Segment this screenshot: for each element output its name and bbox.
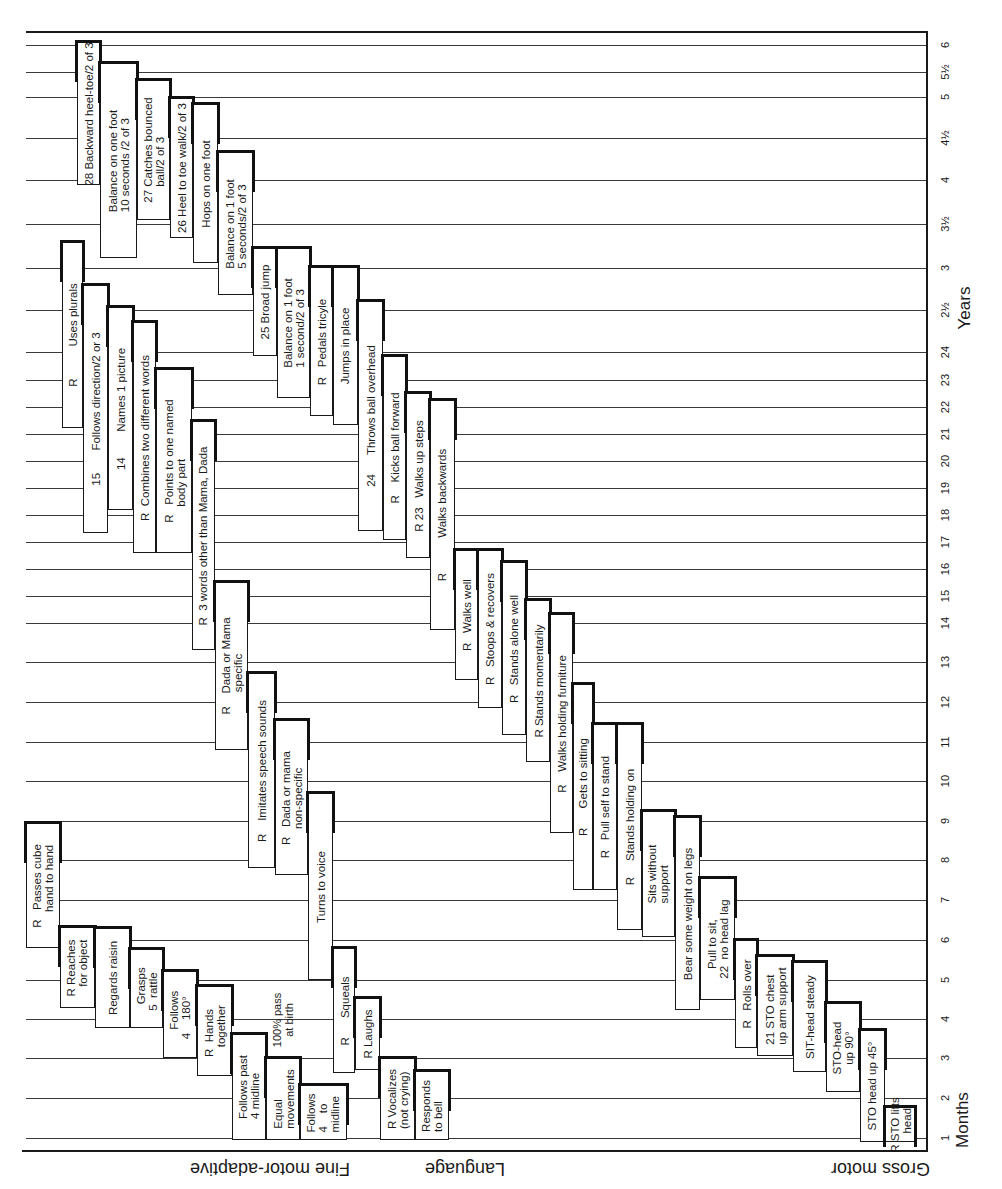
age-tick-label: 5 — [935, 970, 955, 990]
age-tick-label: 7 — [935, 890, 955, 910]
milestone-label: STO head up 45° — [866, 1042, 878, 1131]
milestone-label: R Walks backwards — [436, 449, 448, 582]
percentile-bar-top — [310, 265, 333, 268]
percentile-bar-marker — [231, 984, 234, 1026]
milestone-item: R Hands together — [197, 986, 232, 1076]
percentile-bar-marker — [191, 367, 194, 409]
age-tick-label: 2 — [935, 1088, 955, 1108]
percentile-bar-marker — [306, 791, 309, 833]
milestone-label: R Kicks ball forward — [389, 392, 401, 503]
percentile-bar-marker — [308, 265, 311, 307]
gridline — [26, 702, 926, 703]
milestone-item: 28 Backward heel-toe/2 of 3 — [77, 42, 100, 185]
percentile-bar-marker — [216, 150, 219, 192]
milestone-label: R Stands alone well — [508, 594, 520, 702]
milestone-item: R Walks well — [455, 550, 478, 680]
percentile-bar-marker — [413, 1069, 416, 1111]
percentile-bar-marker — [382, 299, 385, 341]
percentile-bar-marker — [548, 612, 551, 654]
percentile-bar-marker — [60, 240, 63, 282]
milestone-item: R Vocalizes (not crying) — [380, 1058, 415, 1140]
percentile-bar-marker — [673, 815, 676, 857]
percentile-bar-marker — [135, 78, 138, 120]
milestone-item: R Pull self to stand — [593, 724, 617, 890]
milestone-label: R 3 words other than Mama, Dada — [197, 446, 209, 625]
age-tick-label: 12 — [935, 692, 955, 712]
percentile-bar-marker — [155, 320, 158, 362]
milestone-label: R Dada or mama non-specific — [279, 751, 303, 845]
percentile-bar-marker — [592, 682, 595, 724]
percentile-bar-marker — [428, 398, 431, 440]
percentile-bar-marker — [824, 1001, 827, 1043]
milestone-item: R Stands holding on — [617, 724, 642, 930]
milestone-label: R Walks holding furniture — [555, 655, 567, 793]
percentile-bar-top — [277, 246, 310, 249]
milestone-label: R Gets to sitting — [577, 738, 589, 836]
percentile-bar-top — [197, 984, 232, 987]
percentile-bar-marker — [191, 102, 194, 144]
milestone-item: Follows past 4 midline — [232, 1034, 266, 1140]
age-tick-label: 14 — [935, 613, 955, 633]
percentile-bar-marker — [214, 419, 217, 461]
percentile-bar-top — [308, 791, 333, 794]
percentile-bar-marker — [213, 580, 216, 622]
milestone-item: Turns to voice — [308, 793, 333, 980]
annotation-note: 100% pass at birth — [271, 993, 295, 1047]
milestone-label: Jumps in place — [339, 308, 351, 385]
percentile-bar-marker — [190, 419, 193, 461]
percentile-bar-marker — [59, 821, 62, 863]
milestone-label: Follows 4 to midline — [305, 1093, 341, 1132]
milestone-label: R Walks well — [460, 579, 472, 651]
age-tick-label: 17 — [935, 532, 955, 552]
milestone-item: Regards raisin — [95, 928, 130, 1028]
age-tick-label: 2½ — [935, 300, 955, 320]
milestone-label: STO-head up 90° — [831, 1021, 855, 1074]
percentile-bar-top — [26, 821, 60, 824]
gridline — [26, 860, 926, 861]
milestone-item: 15 Follows direction/2 or 3 — [83, 285, 108, 533]
percentile-bar-marker — [75, 40, 78, 82]
milestone-label: R Pull self to stand — [599, 756, 611, 858]
milestone-label: 14 Names 1 picture — [115, 347, 127, 469]
age-tick-label: 5 — [935, 87, 955, 107]
milestone-item: 26 Heel to toe walk/2 of 3 — [170, 98, 193, 238]
percentile-bar-marker — [264, 1056, 267, 1098]
percentile-bar-marker — [58, 925, 61, 967]
milestone-label: Follows past 4 midline — [237, 1055, 261, 1119]
milestone-label: 28 Backward heel-toe/2 of 3 — [83, 42, 95, 185]
percentile-bar-marker — [378, 1056, 381, 1098]
milestone-item: Balance on 1 foot 5 seconds/2 of 3 — [218, 152, 253, 295]
milestone-label: 26 Heel to toe walk/2 of 3 — [175, 103, 187, 233]
milestone-item: Pull to sit, 22 no head lag — [700, 878, 735, 1000]
percentile-bar-marker — [404, 391, 407, 433]
milestone-label: R STO lifts head — [888, 1097, 912, 1152]
percentile-bar-marker — [381, 354, 384, 396]
percentile-bar-marker — [914, 1105, 917, 1147]
milestone-label: Balance on 1 foot 5 seconds/2 of 3 — [223, 179, 247, 269]
percentile-bar-marker — [379, 996, 382, 1038]
percentile-bar-top — [573, 682, 593, 685]
percentile-bar-marker — [615, 722, 618, 764]
sector-label-gross-motor: Gross motor — [780, 1152, 930, 1186]
milestone-item: R Walks backwards — [430, 400, 455, 630]
percentile-bar-top — [793, 960, 826, 963]
percentile-bar-top — [108, 305, 133, 308]
milestone-label: R Rolls over — [740, 959, 752, 1028]
age-tick-label: 1 — [935, 1128, 955, 1148]
percentile-bar-top — [757, 954, 793, 957]
percentile-bar-marker — [82, 240, 85, 282]
milestone-label: Balance on one foot 10 seconds /2 of 3 — [107, 109, 131, 211]
milestone-label: R Stoops & recovers — [484, 573, 496, 685]
milestone-label: R Uses plurals — [66, 283, 78, 387]
milestone-label: Grasps 5 rattle — [135, 967, 159, 1010]
percentile-bar-marker — [699, 815, 702, 857]
milestone-item: R Reaches for object — [60, 927, 95, 1008]
milestone-label: 25 Broad jump — [259, 265, 271, 340]
percentile-bar-top — [248, 671, 275, 674]
milestone-item: 21 STO chest up arm support — [757, 956, 793, 1056]
age-tick-label: 3 — [935, 258, 955, 278]
gridline — [26, 310, 926, 311]
milestone-item: R Stands momentarily — [526, 600, 550, 762]
milestone-item: R Imitates speech sounds — [248, 673, 275, 868]
milestone-item: Grasps 5 rattle — [130, 949, 163, 1028]
